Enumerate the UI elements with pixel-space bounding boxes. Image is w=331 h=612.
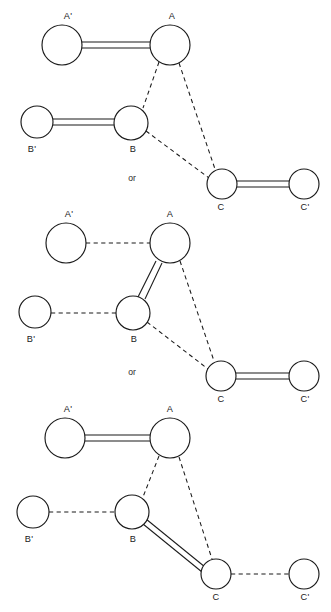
bond-c-cprime	[237, 181, 289, 187]
bond-a-b	[138, 261, 162, 299]
atom-b	[115, 495, 149, 529]
label-b-prime: B'	[25, 534, 33, 544]
atom-c-prime	[289, 361, 319, 391]
atom-c-prime	[289, 169, 319, 199]
label-b: B	[130, 144, 136, 154]
panel-1: A' A B' B C C'	[21, 11, 319, 212]
atom-a-prime	[46, 223, 86, 263]
label-a-prime: A'	[64, 11, 72, 21]
panel-2: A' A B' B C C'	[19, 209, 319, 404]
label-a: A	[167, 209, 174, 219]
bond-c-cprime	[236, 373, 289, 379]
bond-aprime-a	[82, 42, 150, 48]
atom-b	[116, 296, 150, 330]
bond-b-c	[147, 322, 208, 369]
atom-a	[150, 25, 190, 65]
bond-a-c	[179, 63, 215, 169]
atom-b-prime	[21, 106, 53, 138]
label-a-prime: A'	[65, 209, 73, 219]
bond-bprime-b	[53, 119, 114, 125]
separator-or-1: or	[128, 173, 136, 183]
label-b-prime: B'	[27, 334, 35, 344]
panel-2-nodes	[19, 223, 319, 391]
bond-a-b	[143, 62, 159, 108]
bond-b-c	[143, 519, 205, 572]
label-b: B	[131, 334, 137, 344]
atom-c	[201, 559, 231, 589]
atom-c	[207, 169, 237, 199]
panel-1-nodes	[21, 25, 319, 199]
atom-b	[114, 106, 148, 140]
bond-b-c	[146, 131, 209, 178]
panel-3-nodes	[17, 418, 319, 589]
label-a-prime: A'	[64, 404, 72, 414]
label-a: A	[169, 11, 176, 21]
label-c-prime: C'	[301, 202, 310, 212]
label-c: C	[213, 592, 220, 602]
atom-c-prime	[289, 559, 319, 589]
atom-a	[150, 418, 190, 458]
atom-a	[150, 223, 190, 263]
atom-a-prime	[42, 25, 82, 65]
bond-a-b	[143, 456, 159, 497]
label-a: A	[167, 404, 174, 414]
bond-aprime-a	[85, 435, 150, 441]
label-c-prime: C'	[301, 592, 310, 602]
separator-or-2: or	[128, 367, 136, 377]
atom-a-prime	[45, 418, 85, 458]
bond-a-c	[180, 261, 214, 361]
diagram-canvas: A' A B' B C C' or	[0, 0, 331, 612]
label-b-prime: B'	[28, 144, 36, 154]
atom-c	[206, 361, 236, 391]
atom-b-prime	[17, 496, 49, 528]
atom-b-prime	[19, 296, 51, 328]
label-c: C	[218, 202, 225, 212]
panel-3: A' A B' B C C'	[17, 404, 319, 602]
bond-a-c	[179, 457, 212, 559]
bonding-structures-figure: A' A B' B C C' or	[0, 0, 331, 612]
label-b: B	[130, 534, 136, 544]
label-c-prime: C'	[301, 394, 310, 404]
label-c: C	[218, 394, 225, 404]
